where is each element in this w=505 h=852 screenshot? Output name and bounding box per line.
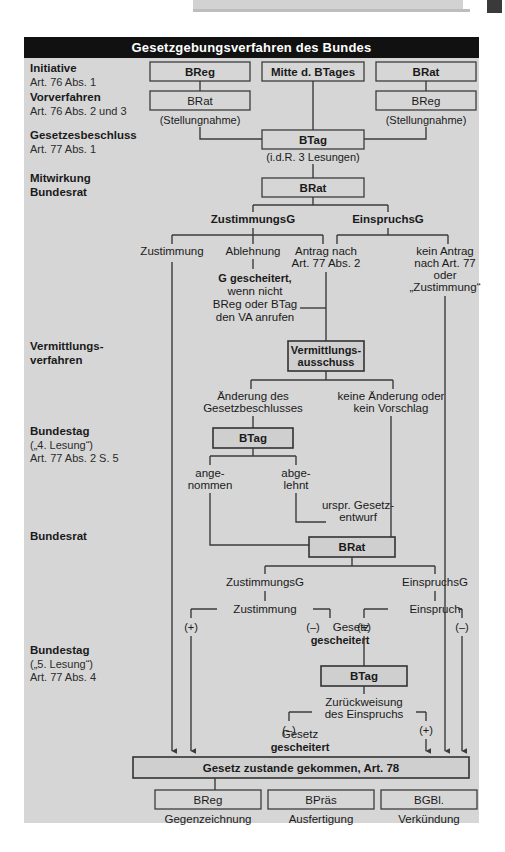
stage-sub: Art. 77 Abs. 1 <box>30 143 137 157</box>
stage-heading: Gesetzesbeschluss <box>30 129 137 143</box>
stage-heading-line2: Bundesrat <box>30 186 91 200</box>
stage-sub: Art. 76 Abs. 2 und 3 <box>30 105 127 119</box>
stage-heading: Mitwirkung <box>30 172 91 186</box>
stage-sub: Art. 76 Abs. 1 <box>30 76 96 90</box>
stage-label-mitwirkung-bundesrat: Mitwirkung Bundesrat <box>30 172 91 199</box>
figure-page: Gesetzgebungsverfahren des Bundes Initia… <box>0 0 505 852</box>
stage-label-initiative: Initiative Art. 76 Abs. 1 <box>30 62 96 89</box>
page-header-strip <box>0 0 505 14</box>
stage-label-vermittlungsverfahren: Vermittlungs- verfahren <box>30 340 103 367</box>
stage-heading: Bundestag <box>30 644 96 658</box>
stage-heading: Bundesrat <box>30 530 87 544</box>
stage-heading-line2: verfahren <box>30 354 103 368</box>
stage-heading: Vermittlungs- <box>30 340 103 354</box>
stage-heading: Initiative <box>30 62 96 76</box>
stage-label-bundesrat: Bundesrat <box>30 530 87 544</box>
stage-label-vorverfahren: Vorverfahren Art. 76 Abs. 2 und 3 <box>30 91 127 118</box>
stage-label-bundestag-fuenfte: Bundestag („5. Lesung“) Art. 77 Abs. 4 <box>30 644 96 685</box>
stage-sub2: Art. 77 Abs. 2 S. 5 <box>30 452 119 466</box>
stage-heading: Bundestag <box>30 425 119 439</box>
stage-sub2: Art. 77 Abs. 4 <box>30 671 96 685</box>
stage-heading: Vorverfahren <box>30 91 127 105</box>
stage-sub: („5. Lesung“) <box>30 658 96 672</box>
page-title: Gesetzgebungsverfahren des Bundes <box>24 37 479 58</box>
header-rule <box>193 9 470 12</box>
header-marker-square <box>487 0 502 13</box>
stage-label-gesetzesbeschluss: Gesetzesbeschluss Art. 77 Abs. 1 <box>30 129 137 156</box>
stage-label-bundestag-vierte: Bundestag („4. Lesung“) Art. 77 Abs. 2 S… <box>30 425 119 466</box>
stage-sub: („4. Lesung“) <box>30 439 119 453</box>
